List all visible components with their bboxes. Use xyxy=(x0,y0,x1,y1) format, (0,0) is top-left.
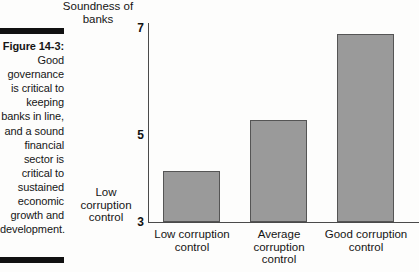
y-axis-low-label: Low corruption control xyxy=(80,186,132,224)
x-axis-line xyxy=(148,222,419,223)
y-tick-label-7: 7 xyxy=(128,21,144,35)
figure-page: Figure 14-3: Good governance is critical… xyxy=(0,0,419,272)
x-tick-label-average: Average corruption control xyxy=(235,228,323,266)
y-tick-label-3: 3 xyxy=(128,215,144,229)
y-tick-label-5: 5 xyxy=(128,128,144,142)
bar-average-corruption-control xyxy=(250,120,307,222)
bar-good-corruption-control xyxy=(337,34,394,222)
x-tick-label-low: Low corruption control xyxy=(148,228,236,253)
bar-chart: Soundness of banks Low corruption contro… xyxy=(0,0,419,272)
x-tick-label-good: Good corruption control xyxy=(322,228,410,253)
y-axis-line xyxy=(148,23,149,222)
bar-low-corruption-control xyxy=(163,171,220,222)
